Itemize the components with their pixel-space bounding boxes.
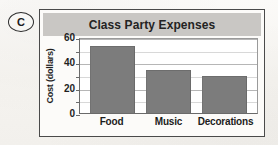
y-tick-label: 60 [64, 33, 75, 43]
y-axis-title-text: Cost (dollars) [45, 48, 55, 103]
bar-series [80, 39, 257, 113]
x-tick-label: Food [83, 116, 140, 127]
y-tick-label: 40 [64, 58, 75, 68]
chart-title-band: Class Party Expenses [43, 13, 261, 36]
y-tick-label: 20 [64, 84, 75, 94]
x-tick-label: Decorations [197, 116, 254, 127]
chart-frame: Class Party Expenses Cost (dollars) 6040… [39, 9, 265, 137]
screenshot-root: C Class Party Expenses Cost (dollars) 60… [0, 0, 278, 145]
y-axis-tick-labels: 6040200 [57, 38, 77, 114]
y-tick-label: 0 [69, 109, 75, 119]
bar-music [146, 70, 191, 113]
bar-food [90, 46, 135, 113]
part-label-c: C [8, 12, 34, 32]
x-tick-label: Music [140, 116, 197, 127]
y-axis-title: Cost (dollars) [43, 38, 57, 114]
bar-slot [140, 39, 196, 113]
bar-decorations [202, 76, 247, 113]
chart-title: Class Party Expenses [89, 18, 216, 32]
chart-body: Cost (dollars) 6040200 FoodMusicDecorati… [43, 38, 261, 133]
x-axis-tick-labels: FoodMusicDecorations [79, 116, 258, 127]
plot-area [79, 38, 258, 114]
bar-slot [84, 39, 140, 113]
bar-slot [197, 39, 253, 113]
